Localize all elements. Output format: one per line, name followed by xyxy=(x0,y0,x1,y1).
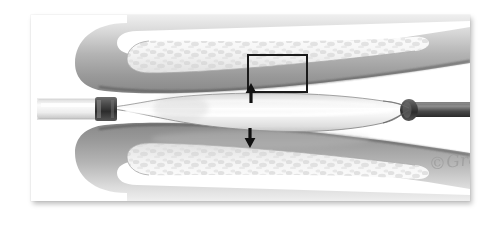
expansion-arrow-up xyxy=(243,82,259,108)
catheter-shaft-proximal xyxy=(37,99,99,119)
lumen-shadow xyxy=(151,130,371,148)
illustration-root: ©Gralapp xyxy=(0,0,500,231)
expansion-arrow-down xyxy=(242,127,258,153)
guidewire-shaft-distal xyxy=(413,102,470,117)
marker-band-proximal xyxy=(95,97,117,121)
medical-illustration-scene xyxy=(31,15,470,201)
illustration-panel: ©Gralapp xyxy=(31,15,470,201)
